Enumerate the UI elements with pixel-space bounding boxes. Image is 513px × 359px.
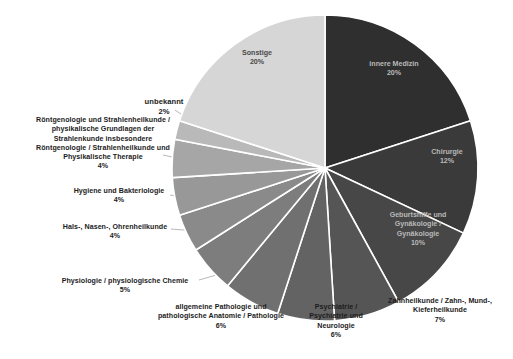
pie-chart-figure: innere Medizin 20% Chirurgie 12% Geburts… — [0, 0, 513, 359]
slice-label-hals-nasen-ohrenheilkunde: Hals-, Nasen-, Ohrenheilkunde 4% — [42, 223, 188, 242]
slice-label-zahnheilkunde: Zahnheilkunde / Zahn-, Mund-, Kieferheil… — [370, 297, 510, 325]
slice-label-physiologie-chemie: Physiologie / physiologische Chemie 5% — [52, 277, 198, 296]
slice-label-allgemeine-pathologie: allgemeine Pathologie und pathologische … — [146, 303, 296, 331]
slice-label-unbekannt: unbekannt 2% — [126, 97, 202, 117]
slice-label-roentgenologie-strahlenheilkunde: Röntgenologie und Strahlenheilkunde / ph… — [8, 116, 198, 172]
slice-label-psychiatrie-neurologie: Psychiatrie / Psychiatrie und Neurologie… — [294, 303, 378, 340]
slice-label-sonstige: Sonstige 20% — [215, 49, 299, 68]
slice-label-innere-medizin: innere Medizin 20% — [346, 60, 442, 79]
slice-label-chirurgie: Chirurgie 12% — [404, 148, 490, 167]
slice-label-geburtshilfe-gynaekologie: Geburtshilfe und Gynäkologie / Gynäkolog… — [366, 211, 470, 249]
slice-label-hygiene-bakteriologie: Hygiene und Bakteriologie 4% — [46, 187, 192, 206]
